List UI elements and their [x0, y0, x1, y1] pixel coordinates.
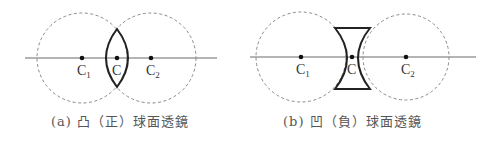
center-point-c2 — [404, 55, 409, 60]
center-point-c1 — [80, 56, 85, 61]
center-point-c2 — [149, 56, 154, 61]
label-c1: C1 — [77, 63, 91, 80]
label-c: C — [347, 62, 356, 77]
label-c2: C2 — [146, 63, 160, 80]
panel-b-concave-lens: C1 C C2 — [250, 12, 476, 102]
label-c1: C1 — [296, 62, 310, 79]
label-c: C — [112, 63, 121, 78]
caption-convex-lens: (a) 凸（正）球面透鏡 — [51, 111, 189, 130]
center-point-c1 — [299, 55, 304, 60]
center-point-c — [115, 56, 120, 61]
panel-a-convex-lens: C1 C C2 — [25, 13, 217, 103]
label-c2: C2 — [401, 62, 415, 79]
center-point-c — [350, 55, 355, 60]
caption-concave-lens: (b) 凹（負）球面透鏡 — [283, 111, 422, 130]
